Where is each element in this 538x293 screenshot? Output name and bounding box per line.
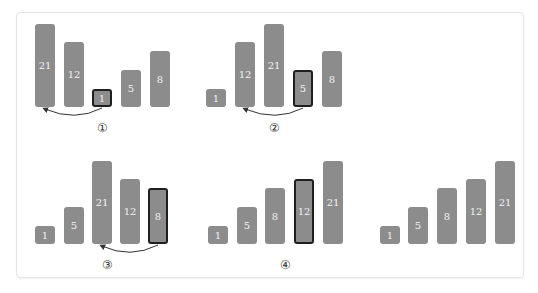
bar-value: 1: [387, 230, 393, 241]
bar: 1: [380, 226, 400, 244]
bar-value: 12: [470, 206, 483, 217]
bar-value: 12: [239, 69, 252, 80]
bar: 5: [237, 207, 257, 244]
bar-value: 8: [272, 211, 278, 222]
bar-value: 21: [499, 197, 512, 208]
bar-highlighted: 5: [293, 70, 313, 107]
bar-highlighted: 12: [294, 179, 314, 244]
bar-value: 21: [327, 197, 340, 208]
bar: 5: [121, 70, 141, 107]
bar: 21: [264, 24, 284, 107]
bar-highlighted: 8: [148, 188, 168, 244]
bar-value: 8: [444, 211, 450, 222]
bar: 8: [437, 188, 457, 244]
bar: 8: [322, 51, 342, 107]
bar: 1: [208, 226, 228, 244]
bar-value: 1: [99, 93, 105, 104]
bar-value: 8: [157, 74, 163, 85]
bar: 12: [120, 179, 140, 244]
bar: 1: [206, 89, 226, 107]
bar-value: 5: [300, 83, 306, 94]
bar-value: 12: [124, 206, 137, 217]
bar: 21: [35, 24, 55, 107]
bar: 8: [150, 51, 170, 107]
bar: 5: [64, 207, 84, 244]
bar: 12: [64, 42, 84, 107]
bar-value: 5: [71, 220, 77, 231]
bar-highlighted: 1: [92, 89, 112, 107]
bar: 21: [323, 161, 343, 244]
step-label: ①: [92, 121, 112, 135]
bar-value: 12: [68, 69, 81, 80]
bar: 8: [265, 188, 285, 244]
bar-value: 5: [244, 220, 250, 231]
bar-value: 1: [42, 230, 48, 241]
bar-value: 12: [298, 206, 311, 217]
bar-value: 1: [215, 230, 221, 241]
bar: 21: [92, 161, 112, 244]
bar-value: 5: [128, 83, 134, 94]
step-label: ②: [264, 121, 284, 135]
step-label: ③: [97, 258, 117, 272]
bar-value: 21: [96, 197, 109, 208]
bar-value: 21: [39, 60, 52, 71]
bar: 12: [235, 42, 255, 107]
bar-value: 1: [213, 93, 219, 104]
bar-value: 5: [415, 220, 421, 231]
bar-value: 8: [155, 211, 161, 222]
bar: 12: [466, 179, 486, 244]
step-label: ④: [275, 258, 295, 272]
bar: 21: [495, 161, 515, 244]
bar-value: 8: [329, 74, 335, 85]
bar: 5: [408, 207, 428, 244]
bar: 1: [35, 226, 55, 244]
bar-value: 21: [268, 60, 281, 71]
